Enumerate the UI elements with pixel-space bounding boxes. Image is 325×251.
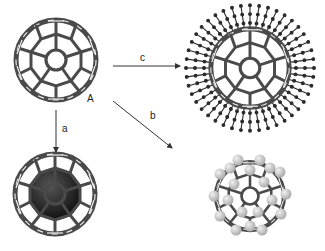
fullerene-with-chains bbox=[185, 4, 316, 132]
fullerene-A bbox=[16, 20, 96, 100]
label-arrow-c: c bbox=[140, 53, 145, 63]
label-arrow-b: b bbox=[150, 111, 156, 121]
arrow-b bbox=[113, 101, 172, 148]
endohedral-fullerene bbox=[15, 154, 95, 234]
fullerene-with-atoms bbox=[209, 155, 292, 236]
diagram-canvas bbox=[0, 0, 325, 251]
label-arrow-a: a bbox=[62, 124, 68, 134]
label-A: A bbox=[87, 94, 94, 104]
